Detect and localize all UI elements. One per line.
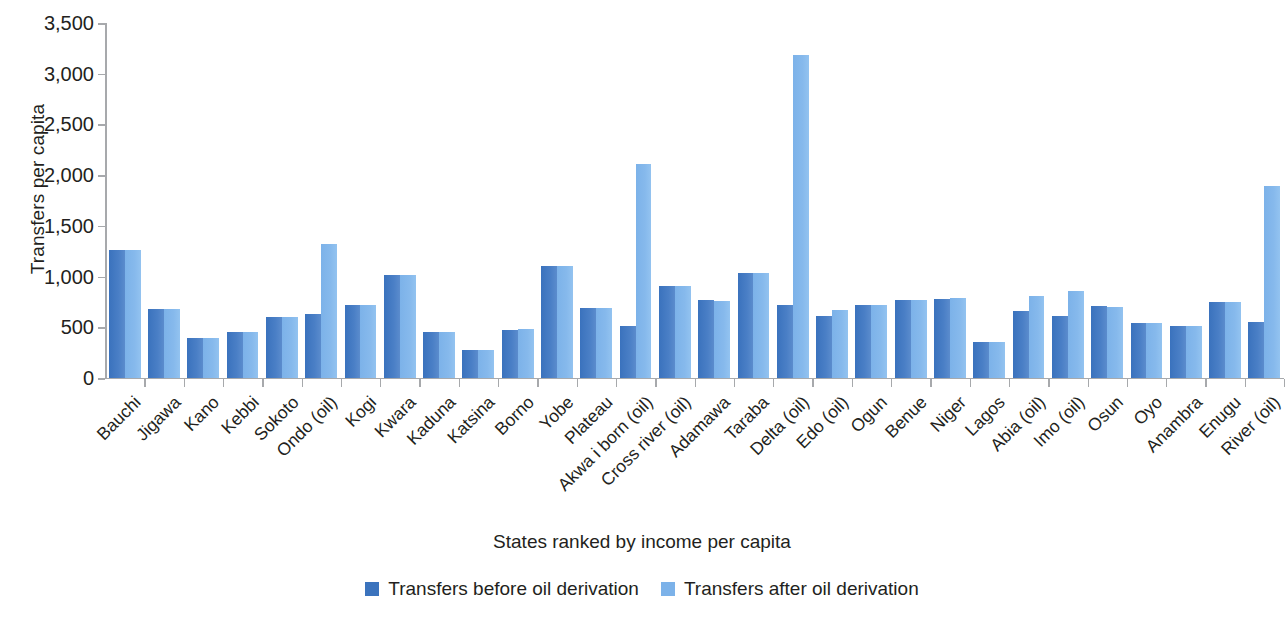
y-tick-label: 2,000 xyxy=(44,164,94,187)
bar-after-oil-derivation xyxy=(1029,296,1045,378)
x-category-label: Osun xyxy=(1083,392,1127,436)
bar-before-oil-derivation xyxy=(384,275,400,378)
y-tick-mark xyxy=(98,74,105,76)
bar-after-oil-derivation xyxy=(1107,307,1123,379)
bar-after-oil-derivation xyxy=(125,250,141,378)
x-axis-title: States ranked by income per capita xyxy=(0,531,1284,553)
bar-before-oil-derivation xyxy=(187,338,203,378)
bar-group xyxy=(1091,23,1123,378)
x-tick-mark xyxy=(1166,379,1167,387)
bar-group xyxy=(462,23,494,378)
bar-after-oil-derivation xyxy=(439,332,455,378)
bar-series-container xyxy=(105,23,1284,378)
bar-before-oil-derivation xyxy=(462,350,478,378)
bar-group xyxy=(895,23,927,378)
bar-group xyxy=(345,23,377,378)
y-tick-mark xyxy=(98,277,105,279)
x-tick-mark xyxy=(695,379,696,387)
bar-before-oil-derivation xyxy=(895,300,911,378)
bar-before-oil-derivation xyxy=(502,330,518,378)
x-tick-mark xyxy=(341,379,342,387)
bar-after-oil-derivation xyxy=(557,266,573,378)
x-tick-mark xyxy=(734,379,735,387)
bar-before-oil-derivation xyxy=(1170,326,1186,378)
bar-before-oil-derivation xyxy=(738,273,754,378)
bar-group xyxy=(109,23,141,378)
y-tick-label: 500 xyxy=(61,316,94,339)
x-tick-mark xyxy=(970,379,971,387)
bar-group xyxy=(580,23,612,378)
x-tick-mark xyxy=(930,379,931,387)
bar-after-oil-derivation xyxy=(203,338,219,378)
bar-after-oil-derivation xyxy=(518,329,534,378)
x-category-label: Niger xyxy=(926,392,970,436)
legend-label: Transfers before oil derivation xyxy=(388,578,639,600)
bar-group xyxy=(777,23,809,378)
bar-group xyxy=(187,23,219,378)
bar-group xyxy=(502,23,534,378)
bar-before-oil-derivation xyxy=(934,299,950,378)
x-tick-mark xyxy=(223,379,224,387)
x-tick-mark xyxy=(537,379,538,387)
bar-after-oil-derivation xyxy=(1264,186,1280,378)
bar-before-oil-derivation xyxy=(266,317,282,378)
bar-before-oil-derivation xyxy=(1248,322,1264,378)
bar-before-oil-derivation xyxy=(541,266,557,378)
bar-after-oil-derivation xyxy=(1146,323,1162,378)
bar-group xyxy=(1052,23,1084,378)
bar-after-oil-derivation xyxy=(753,273,769,378)
bar-before-oil-derivation xyxy=(1013,311,1029,378)
bar-before-oil-derivation xyxy=(698,300,714,378)
bar-after-oil-derivation xyxy=(282,317,298,378)
bar-before-oil-derivation xyxy=(973,342,989,379)
bar-group xyxy=(1209,23,1241,378)
legend-label: Transfers after oil derivation xyxy=(684,578,919,600)
bar-before-oil-derivation xyxy=(855,305,871,378)
legend-item: Transfers after oil derivation xyxy=(661,578,919,600)
bar-before-oil-derivation xyxy=(1091,306,1107,378)
x-category-label: Kano xyxy=(180,392,224,436)
bar-after-oil-derivation xyxy=(675,286,691,378)
x-tick-mark xyxy=(262,379,263,387)
bar-group xyxy=(423,23,455,378)
bar-before-oil-derivation xyxy=(148,309,164,378)
x-tick-mark xyxy=(380,379,381,387)
bar-after-oil-derivation xyxy=(871,305,887,378)
bar-after-oil-derivation xyxy=(911,300,927,378)
bar-group xyxy=(541,23,573,378)
bar-group xyxy=(738,23,770,378)
bar-after-oil-derivation xyxy=(714,301,730,378)
y-tick-mark xyxy=(98,23,105,25)
y-tick-mark xyxy=(98,124,105,126)
x-tick-mark xyxy=(616,379,617,387)
bar-before-oil-derivation xyxy=(109,250,125,378)
x-category-label: Bauchi xyxy=(92,392,145,445)
bar-before-oil-derivation xyxy=(580,308,596,378)
bar-group xyxy=(934,23,966,378)
x-tick-mark xyxy=(1245,379,1246,387)
bar-after-oil-derivation xyxy=(1068,291,1084,378)
y-tick-label: 3,500 xyxy=(44,12,94,35)
x-tick-mark xyxy=(773,379,774,387)
x-tick-mark xyxy=(184,379,185,387)
x-tick-mark xyxy=(498,379,499,387)
x-tick-mark xyxy=(419,379,420,387)
bar-before-oil-derivation xyxy=(620,326,636,378)
legend-swatch-icon xyxy=(365,582,379,596)
bar-group xyxy=(305,23,337,378)
bar-group xyxy=(148,23,180,378)
legend-item: Transfers before oil derivation xyxy=(365,578,639,600)
legend-swatch-icon xyxy=(661,582,675,596)
x-tick-mark xyxy=(1048,379,1049,387)
bar-before-oil-derivation xyxy=(423,332,439,378)
bar-after-oil-derivation xyxy=(321,244,337,378)
y-tick-mark xyxy=(98,327,105,329)
x-category-label: Borno xyxy=(490,392,538,440)
bar-after-oil-derivation xyxy=(989,342,1005,379)
bar-group xyxy=(266,23,298,378)
bar-after-oil-derivation xyxy=(950,298,966,378)
bar-after-oil-derivation xyxy=(1225,302,1241,378)
y-tick-label: 0 xyxy=(83,367,94,390)
bar-after-oil-derivation xyxy=(400,275,416,378)
